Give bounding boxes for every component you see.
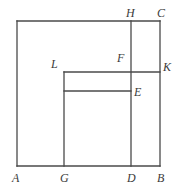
vertex-label-L: L bbox=[51, 58, 58, 70]
figure-canvas bbox=[0, 0, 185, 193]
vertex-label-B: B bbox=[157, 172, 164, 184]
vertex-label-G: G bbox=[60, 172, 69, 184]
geometry-figure: H C L F K E A G D B bbox=[0, 0, 185, 193]
vertex-label-C: C bbox=[157, 7, 165, 19]
vertex-label-A: A bbox=[12, 172, 19, 184]
vertex-label-E: E bbox=[134, 86, 141, 98]
vertex-label-F: F bbox=[117, 52, 124, 64]
vertex-label-K: K bbox=[163, 61, 171, 73]
vertex-label-D: D bbox=[127, 172, 136, 184]
vertex-label-H: H bbox=[126, 7, 135, 19]
